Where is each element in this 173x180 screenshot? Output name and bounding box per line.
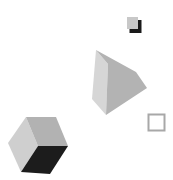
- small-square-with-shadow: [127, 17, 142, 33]
- triangular-prism: [92, 50, 147, 115]
- outlined-square: [149, 115, 165, 131]
- geometric-shapes-scene: [0, 0, 173, 180]
- cube: [8, 117, 68, 174]
